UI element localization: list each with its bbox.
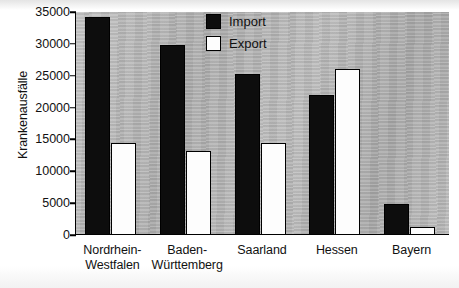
legend-item-export: Export bbox=[206, 32, 326, 54]
y-tick-label: 15000 bbox=[14, 132, 70, 146]
legend-label-export: Export bbox=[229, 36, 267, 51]
bar-export-0 bbox=[111, 143, 136, 235]
bar-import-3 bbox=[309, 95, 334, 235]
y-tick-label: 30000 bbox=[14, 37, 70, 51]
x-axis-label-line: Bayern bbox=[364, 243, 459, 258]
bar-import-4 bbox=[384, 204, 409, 235]
legend-swatch-import-icon bbox=[206, 14, 221, 29]
bar-export-3 bbox=[335, 69, 360, 235]
bar-import-0 bbox=[85, 17, 110, 235]
y-tick-label: 10000 bbox=[14, 164, 70, 178]
y-tick-label: 25000 bbox=[14, 69, 70, 83]
x-axis-label-line: Württemberg bbox=[140, 258, 235, 273]
y-tick-label: 5000 bbox=[14, 196, 70, 210]
bar-export-1 bbox=[186, 151, 211, 235]
bar-export-4 bbox=[410, 227, 435, 235]
x-axis-label-4: Bayern bbox=[364, 243, 459, 258]
chart-legend: Import Export bbox=[206, 10, 326, 54]
y-tick-label: 0 bbox=[14, 228, 70, 242]
y-tick-label: 20000 bbox=[14, 101, 70, 115]
bar-import-2 bbox=[235, 74, 260, 235]
legend-item-import: Import bbox=[206, 10, 326, 32]
y-axis-ticks: 35000300002500020000150001000050000 bbox=[0, 0, 70, 288]
bar-export-2 bbox=[261, 143, 286, 235]
legend-swatch-export-icon bbox=[206, 36, 221, 51]
y-tick-label: 35000 bbox=[14, 5, 70, 19]
bar-import-1 bbox=[160, 45, 185, 235]
legend-label-import: Import bbox=[229, 14, 266, 29]
bar-chart-figure: Krankenausfälle 350003000025000200001500… bbox=[0, 0, 459, 288]
